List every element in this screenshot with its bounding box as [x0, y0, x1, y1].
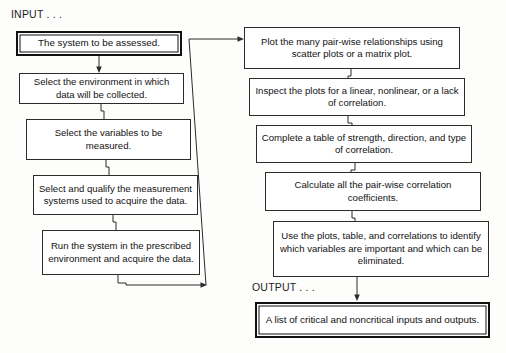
node-environment-text: Select the environment in which data wil…	[24, 76, 179, 101]
node-complete-table[interactable]: Complete a table of strength, direction,…	[256, 125, 472, 163]
node-inspect-plots[interactable]: Inspect the plots for a linear, nonlinea…	[249, 78, 465, 116]
node-inspect-plots-text: Inspect the plots for a linear, nonlinea…	[254, 85, 460, 110]
connector-identify-to-output	[354, 277, 360, 301]
node-identify-variables-text: Use the plots, table, and correlations t…	[278, 230, 484, 267]
connector-system-to-environment	[96, 56, 102, 73]
node-run-system-text: Run the system in the prescribed environ…	[47, 240, 195, 265]
node-calculate-coefficients[interactable]: Calculate all the pair-wise correlation …	[265, 172, 481, 211]
node-system-text: The system to be assessed.	[24, 37, 174, 49]
connector-measurement-to-run	[113, 215, 116, 230]
node-system[interactable]: The system to be assessed.	[16, 31, 182, 56]
connector-environment-to-variables	[101, 104, 104, 119]
node-critical-inputs-text: A list of critical and noncritical input…	[263, 314, 482, 326]
node-run-system[interactable]: Run the system in the prescribed environ…	[42, 230, 200, 275]
node-measurement-systems-text: Select and qualify the measurement syste…	[38, 183, 193, 208]
connector-variables-to-measurement	[106, 160, 109, 175]
node-critical-inputs[interactable]: A list of critical and noncritical input…	[255, 302, 490, 338]
flowchart-canvas: INPUT . . . OUTPUT . . . The system to b…	[0, 0, 506, 353]
node-plot-pairwise[interactable]: Plot the many pair-wise relationships us…	[244, 27, 460, 69]
node-identify-variables[interactable]: Use the plots, table, and correlations t…	[273, 221, 489, 277]
node-complete-table-text: Complete a table of strength, direction,…	[261, 132, 467, 157]
node-measurement-systems[interactable]: Select and qualify the measurement syste…	[33, 175, 198, 215]
output-label: OUTPUT . . .	[252, 281, 315, 293]
node-plot-pairwise-text: Plot the many pair-wise relationships us…	[249, 36, 455, 61]
node-variables[interactable]: Select the variables to be measured.	[26, 119, 191, 160]
input-label: INPUT . . .	[11, 8, 62, 20]
node-calculate-coefficients-text: Calculate all the pair-wise correlation …	[270, 179, 476, 204]
node-environment[interactable]: Select the environment in which data wil…	[19, 73, 184, 104]
node-variables-text: Select the variables to be measured.	[31, 127, 186, 152]
